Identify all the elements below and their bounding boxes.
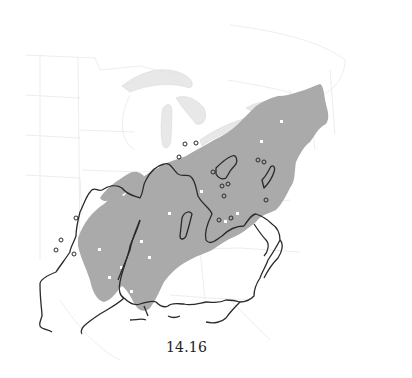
range-map — [0, 0, 412, 378]
coastline — [254, 224, 268, 256]
figure-caption: 14.16 — [166, 339, 207, 355]
